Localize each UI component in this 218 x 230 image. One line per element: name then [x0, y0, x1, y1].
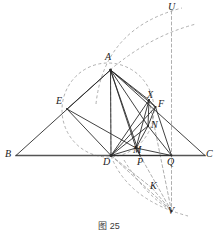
- point-label-u: U: [168, 2, 175, 12]
- point-label-c: C: [206, 149, 213, 159]
- point-label-v: V: [168, 206, 174, 216]
- figure-caption: 图 25: [0, 219, 218, 230]
- segment-AN: [111, 70, 149, 126]
- point-label-x: X: [147, 90, 153, 100]
- point-label-p: P: [137, 157, 143, 167]
- segment-DX: [111, 100, 149, 156]
- point-label-b: B: [5, 149, 11, 159]
- geometry-figure: ABCDEFXNMPQUVK 图 25: [0, 0, 218, 230]
- dashed-curve-group: [62, 8, 196, 216]
- point-label-q: Q: [167, 157, 174, 167]
- vertex-dot-f: [155, 106, 157, 108]
- vertex-dot-a: [109, 69, 112, 72]
- point-label-k: K: [150, 181, 157, 191]
- segment-ED: [67, 109, 111, 156]
- vertex-dot-e: [66, 108, 68, 110]
- point-label-f: F: [158, 99, 164, 109]
- point-label-d: D: [103, 157, 110, 167]
- point-label-a: A: [105, 52, 111, 62]
- segment-FQ: [156, 107, 172, 156]
- segment-AE: [67, 70, 111, 109]
- point-label-e: E: [56, 96, 62, 106]
- point-label-m: M: [133, 145, 141, 155]
- arc-lower-inner: [124, 160, 172, 211]
- point-label-n: N: [151, 120, 158, 130]
- geometry-canvas: [0, 0, 218, 230]
- arc-upper-inner: [110, 24, 196, 70]
- segment-AD: [111, 70, 112, 156]
- circle-AED: [62, 63, 154, 157]
- solid-line-group: [16, 70, 205, 156]
- vertex-dot-n: [147, 125, 149, 127]
